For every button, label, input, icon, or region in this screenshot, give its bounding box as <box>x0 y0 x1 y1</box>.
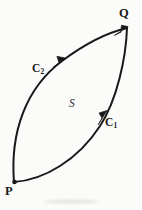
curve-label-c1: C1 <box>105 117 117 129</box>
curve-label-c2-base: C <box>32 62 40 74</box>
region-label-s: S <box>69 98 75 110</box>
figure-canvas: P Q C2 C1 S <box>0 0 142 210</box>
curve-label-c1-subscript: 1 <box>114 121 118 130</box>
scan-artifact-smudge <box>44 199 98 204</box>
curve-label-c1-base: C <box>105 116 113 128</box>
curve-label-c2: C2 <box>32 63 44 75</box>
vertex-label-q: Q <box>119 7 129 20</box>
curve-label-c2-subscript: 2 <box>41 67 45 76</box>
curve-c2-arrowhead <box>53 56 66 67</box>
vertex-label-p: P <box>5 185 13 198</box>
